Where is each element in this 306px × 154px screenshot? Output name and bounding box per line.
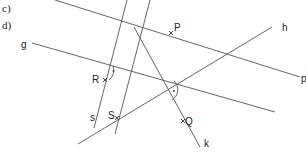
line-p [55,0,300,77]
line-g [32,43,275,112]
geometry-diagram: c) d) g h p s k P R S Q [0,0,306,154]
line-s [94,0,127,128]
line-h-label: h [282,23,288,33]
point-p-cross [169,31,173,35]
right-angle-dot-left [113,70,115,72]
diagram-canvas [0,0,306,154]
point-q-label: Q [185,117,193,127]
right-angle-dot-right [173,90,175,92]
task-c-label: c) [2,3,11,14]
point-p-label: P [174,23,181,33]
line-s-label: s [90,113,95,123]
line-g-label: g [21,40,27,50]
point-s-cross [115,116,119,120]
point-r-label: R [92,75,99,85]
point-s-label: S [108,111,115,121]
line-k [134,27,200,147]
task-d-label: d) [2,20,11,31]
line-k-label: k [204,139,209,149]
line-h [78,27,272,144]
line-p-label: p [301,74,306,84]
